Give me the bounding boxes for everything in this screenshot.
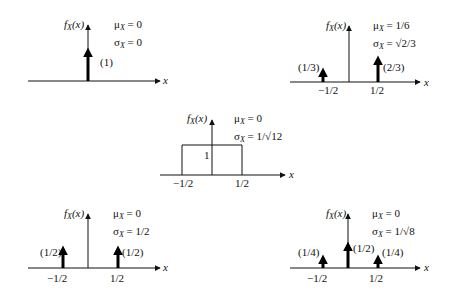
- panel-three-point: fX(x)xμX = 0σX = 1/√8(1/4)(1/2)(1/4)−1/2…: [290, 207, 429, 284]
- mean-label: μX = 0: [114, 18, 143, 32]
- xlabel-x: x: [162, 261, 168, 273]
- panel-delta-at-zero: fX(x)xμX = 0σX = 0(1): [28, 18, 168, 86]
- tick-label: −1/2: [318, 84, 338, 96]
- xlabel-x: x: [423, 261, 429, 273]
- impulse-weight-label: (1/4): [382, 246, 404, 259]
- mean-label: μX = 1/6: [373, 19, 410, 33]
- impulse-weight-label: (1/4): [298, 246, 320, 259]
- tick-label: 1/2: [110, 272, 124, 284]
- tick-label: 1/2: [370, 84, 384, 96]
- impulse-weight-label: (1): [100, 56, 113, 69]
- tick-label: −1/2: [47, 272, 67, 284]
- panel-uniform: fX(x)xμX = 0σX = 1/√121−1/21/2: [160, 112, 294, 189]
- ylabel-fx: fX(x): [64, 207, 84, 221]
- ylabel-fx: fX(x): [326, 207, 346, 221]
- std-label: σX = 1/√8: [372, 225, 415, 239]
- impulse-weight-label: (2/3): [383, 61, 405, 74]
- panel-two-point-sym: fX(x)xμX = 0σX = 1/2(1/2)(1/2)−1/21/2: [28, 207, 168, 284]
- mean-label: μX = 0: [113, 207, 142, 221]
- tick-label: 1/2: [369, 272, 383, 284]
- density-height-label: 1: [204, 149, 210, 161]
- tick-label: −1/2: [173, 177, 193, 189]
- tick-label: 1/2: [235, 177, 249, 189]
- std-label: σX = 1/√12: [234, 130, 282, 144]
- xlabel-x: x: [288, 168, 294, 180]
- xlabel-x: x: [423, 76, 429, 88]
- impulse-weight-label: (1/3): [298, 61, 320, 74]
- panels-group: fX(x)xμX = 0σX = 0(1)fX(x)xμX = 1/6σX = …: [28, 18, 429, 284]
- mean-label: μX = 0: [234, 112, 263, 126]
- panel-two-point-asym: fX(x)xμX = 1/6σX = √2/3(1/3)(2/3)−1/21/2: [290, 19, 429, 96]
- std-label: σX = √2/3: [373, 37, 416, 51]
- ylabel-fx: fX(x): [187, 112, 207, 126]
- impulse-weight-label: (1/2): [353, 242, 375, 255]
- mean-label: μX = 0: [372, 207, 401, 221]
- std-label: σX = 0: [114, 36, 143, 50]
- ylabel-fx: fX(x): [64, 18, 84, 32]
- xlabel-x: x: [162, 74, 168, 86]
- std-label: σX = 1/2: [113, 225, 150, 239]
- impulse-weight-label: (1/2): [40, 246, 62, 259]
- ylabel-fx: fX(x): [326, 19, 346, 33]
- impulse-weight-label: (1/2): [122, 246, 144, 259]
- pdf-figure: fX(x)xμX = 0σX = 0(1)fX(x)xμX = 1/6σX = …: [0, 0, 451, 291]
- tick-label: −1/2: [307, 272, 327, 284]
